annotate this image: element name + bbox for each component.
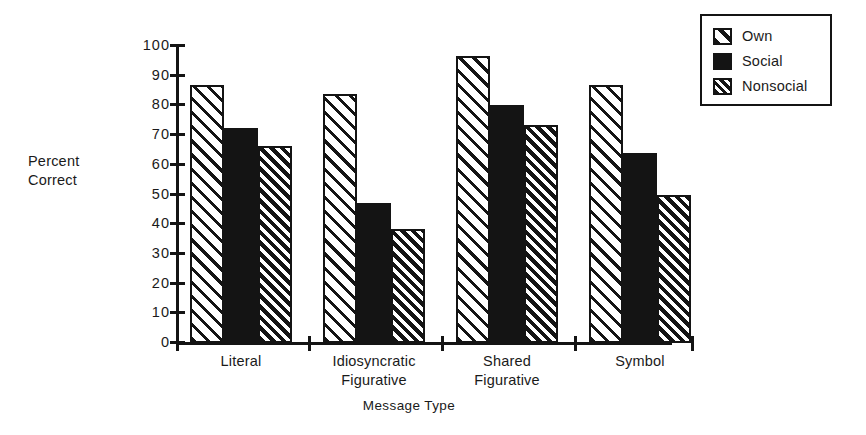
bar-group [323, 45, 425, 343]
legend-label: Own [742, 29, 772, 44]
x-axis-tick-labels: LiteralIdiosyncraticFigurativeSharedFigu… [0, 352, 866, 402]
y-axis-tick-label: 50 [118, 186, 170, 201]
bar-nonsocial [391, 229, 425, 343]
bar-nonsocial [258, 146, 292, 344]
bar-social [623, 153, 657, 343]
y-axis-tick-label: 80 [118, 97, 170, 112]
x-axis-tick-label: Symbol [550, 352, 730, 371]
legend-swatch-social-icon [713, 53, 732, 70]
y-axis-tick-label: 100 [118, 38, 170, 53]
legend-item-nonsocial[interactable]: Nonsocial [713, 74, 830, 99]
bar-nonsocial [657, 195, 691, 344]
legend-item-social[interactable]: Social [713, 49, 830, 74]
legend-label: Nonsocial [742, 79, 807, 94]
legend-swatch-own-icon [713, 28, 732, 45]
bar-nonsocial [524, 125, 558, 343]
x-axis-title: Message Type [0, 398, 866, 413]
x-axis-tick-label-line: Figurative [417, 371, 597, 390]
legend-item-own[interactable]: Own [713, 24, 830, 49]
legend-swatch-nonsocial-icon [713, 78, 732, 95]
chart-legend: OwnSocialNonsocial [700, 14, 832, 106]
bar-social [224, 128, 258, 343]
bar-social [357, 203, 391, 343]
legend-label: Social [742, 54, 783, 69]
bar-own [190, 85, 224, 343]
y-axis-tick-label: 70 [118, 127, 170, 142]
plot-area [176, 45, 676, 343]
x-axis-title-text: Message Type [363, 398, 455, 413]
bar-group [190, 45, 292, 343]
bar-own [456, 56, 490, 343]
y-axis-tick-label: 30 [118, 246, 170, 261]
y-axis-tick-label: 0 [118, 335, 170, 350]
bar-chart-figure: Percent Correct 0102030405060708090100 L… [0, 0, 866, 435]
x-axis-tick-label-line: Symbol [550, 352, 730, 371]
bar-social [490, 105, 524, 343]
y-axis-tick-label: 40 [118, 216, 170, 231]
bar-own [589, 85, 623, 343]
x-axis-tick-mark [691, 336, 694, 351]
y-axis-tick-label: 20 [118, 275, 170, 290]
bar-own [323, 94, 357, 343]
bar-group [589, 45, 691, 343]
y-axis-tick-label: 10 [118, 305, 170, 320]
y-axis-tick-label: 90 [118, 67, 170, 82]
y-axis-tick-label: 60 [118, 157, 170, 172]
bar-group [456, 45, 558, 343]
